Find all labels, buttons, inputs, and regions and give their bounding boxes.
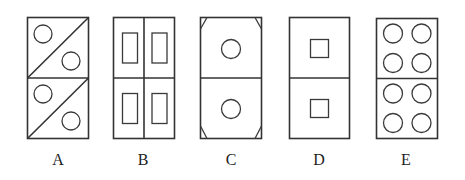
rectangle-icon bbox=[152, 33, 167, 63]
circle-icon bbox=[384, 24, 403, 43]
corner-cut bbox=[255, 18, 262, 30]
circle-icon bbox=[412, 84, 431, 103]
option-b-figure bbox=[114, 18, 175, 139]
square-icon bbox=[311, 100, 329, 118]
circle-icon bbox=[412, 24, 431, 43]
option-label-d: D bbox=[304, 150, 334, 170]
corner-cut bbox=[255, 126, 262, 139]
option-c-figure bbox=[201, 18, 262, 139]
option-label-c: C bbox=[216, 150, 246, 170]
puzzle-figure: A B C D E bbox=[0, 0, 465, 180]
option-e-figure bbox=[377, 19, 438, 139]
square-icon bbox=[311, 40, 329, 58]
circle-icon bbox=[412, 114, 431, 133]
circle-icon bbox=[34, 85, 52, 103]
circle-icon bbox=[62, 52, 80, 70]
circle-icon bbox=[384, 114, 403, 133]
circle-icon bbox=[222, 100, 241, 119]
option-d-figure bbox=[290, 18, 350, 139]
option-label-b: B bbox=[128, 150, 158, 170]
corner-cut bbox=[201, 126, 208, 139]
circle-icon bbox=[384, 84, 403, 103]
corner-cut bbox=[201, 18, 208, 30]
option-a-figure bbox=[28, 18, 89, 139]
circle-icon bbox=[222, 40, 241, 59]
rectangle-icon bbox=[123, 94, 138, 124]
option-label-e: E bbox=[391, 150, 421, 170]
rectangle-icon bbox=[123, 33, 138, 63]
rectangle-icon bbox=[152, 94, 167, 124]
circle-icon bbox=[412, 54, 431, 73]
circle-icon bbox=[62, 112, 80, 130]
circle-icon bbox=[34, 25, 52, 43]
option-label-a: A bbox=[43, 150, 73, 170]
circle-icon bbox=[384, 54, 403, 73]
